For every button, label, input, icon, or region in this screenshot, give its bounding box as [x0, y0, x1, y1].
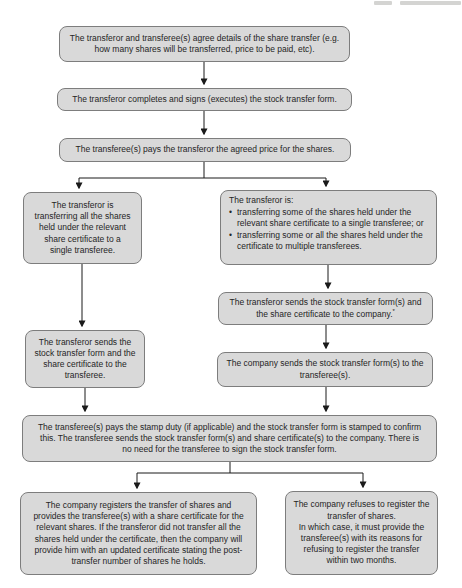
branch-right-intro: The transferor is:	[229, 195, 428, 206]
outcome-company-registers-text: The company registers the transfer of sh…	[29, 500, 248, 567]
right-step-send-to-company-text: The transferor sends the stock transfer …	[225, 297, 426, 319]
step-sign-form: The transferor completes and signs (exec…	[57, 88, 352, 111]
step-pay-price-text: The transferee(s) pays the transferor th…	[76, 144, 335, 155]
branch-all-shares-single-transferee: The transferor is transferring all the s…	[23, 192, 142, 264]
branch-right-bullet-2: • transferring some or all the shares he…	[229, 230, 428, 252]
branch-some-shares-multiple-transferees: The transferor is: • transferring some o…	[220, 190, 437, 265]
bullet-marker: •	[229, 230, 237, 252]
outcome-company-refuses-text: The company refuses to register the tran…	[293, 499, 430, 566]
outcome-company-registers: The company registers the transfer of sh…	[20, 492, 257, 575]
page-header-fragment	[374, 1, 392, 5]
right-step-send-to-company: The transferor sends the stock transfer …	[218, 292, 433, 325]
left-step-send-to-transferee: The transferor sends the stock transfer …	[25, 330, 145, 388]
merge-step-stamp-duty-text: The transferee(s) pays the stamp duty (i…	[35, 422, 424, 456]
bullet-marker: •	[229, 207, 237, 229]
outcome-company-refuses: The company refuses to register the tran…	[285, 491, 438, 575]
page-header-fragment	[400, 1, 461, 5]
footnote-asterisk: *	[393, 308, 395, 314]
right-step-company-sends-form-text: The company sends the stock transfer for…	[224, 358, 426, 380]
left-step-send-to-transferee-text: The transferor sends the stock transfer …	[32, 337, 138, 382]
merge-step-stamp-duty: The transferee(s) pays the stamp duty (i…	[22, 415, 437, 462]
right-step-company-sends-form: The company sends the stock transfer for…	[217, 352, 433, 387]
flowchart-page: The transferor and transferee(s) agree d…	[0, 0, 462, 588]
step-agree-details-text: The transferor and transferee(s) agree d…	[66, 33, 343, 55]
step-agree-details: The transferor and transferee(s) agree d…	[59, 26, 350, 62]
step-pay-price: The transferee(s) pays the transferor th…	[59, 138, 351, 162]
branch-right-bullet-1: • transferring some of the shares held u…	[229, 207, 428, 229]
branch-left-text: The transferor is transferring all the s…	[32, 200, 133, 256]
step-sign-form-text: The transferor completes and signs (exec…	[72, 94, 337, 105]
